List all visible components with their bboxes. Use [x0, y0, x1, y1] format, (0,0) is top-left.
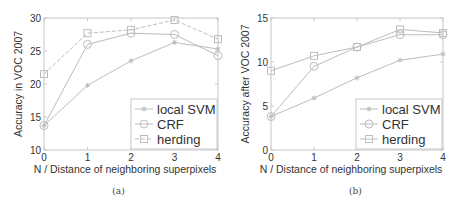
- x-tick-label: 3: [397, 152, 403, 163]
- y-tick-label: 25: [30, 46, 42, 57]
- series-herding: [41, 16, 222, 77]
- legend-label: local SVM: [382, 102, 441, 117]
- caption-a: (a): [0, 186, 237, 196]
- x-tick-label: 1: [311, 152, 317, 163]
- asterisk-legend-icon: [367, 107, 372, 112]
- x-tick-label: 0: [41, 152, 47, 163]
- x-tick-label: 0: [268, 152, 274, 163]
- legend-label: CRF: [382, 117, 409, 132]
- caption-b: (b): [237, 186, 474, 196]
- y-tick-label: 15: [257, 13, 269, 24]
- asterisk-marker-icon: [441, 52, 446, 57]
- asterisk-marker-icon: [172, 40, 177, 45]
- y-tick-label: 30: [30, 13, 42, 24]
- asterisk-marker-icon: [85, 83, 90, 88]
- y-axis-label: Accuracy after VOC 2007: [239, 24, 251, 143]
- line-chart-a: 012341015202530N / Distance of neighbori…: [0, 0, 237, 204]
- x-tick-label: 2: [354, 152, 360, 163]
- y-tick-label: 15: [30, 112, 42, 123]
- y-tick-label: 5: [262, 101, 268, 112]
- chart-panel-a: 012341015202530N / Distance of neighbori…: [0, 0, 237, 204]
- asterisk-marker-icon: [216, 47, 221, 52]
- asterisk-marker-icon: [312, 96, 317, 101]
- asterisk-legend-icon: [142, 107, 147, 112]
- y-tick-label: 20: [30, 79, 42, 90]
- x-tick-label: 4: [215, 152, 221, 163]
- legend: local SVMCRFherding: [356, 99, 442, 149]
- x-tick-label: 2: [128, 152, 134, 163]
- x-tick-label: 4: [440, 152, 446, 163]
- chart-panel-b: 01234051015N / Distance of neighboring s…: [237, 0, 474, 204]
- legend: local SVMCRFherding: [131, 99, 217, 149]
- asterisk-marker-icon: [398, 58, 403, 63]
- x-axis-label: N / Distance of neighboring superpixels: [260, 163, 443, 175]
- x-tick-label: 3: [172, 152, 178, 163]
- legend-label: CRF: [157, 117, 184, 132]
- x-axis-label: N / Distance of neighboring superpixels: [34, 163, 217, 175]
- y-axis-label: Accuracy in VOC 2007: [12, 31, 24, 137]
- legend-label: herding: [157, 132, 200, 147]
- legend-label: herding: [382, 132, 425, 147]
- asterisk-marker-icon: [129, 58, 134, 63]
- y-tick-label: 10: [257, 57, 269, 68]
- line-chart-b: 01234051015N / Distance of neighboring s…: [237, 0, 474, 204]
- x-tick-label: 1: [85, 152, 91, 163]
- y-tick-label: 0: [262, 145, 268, 156]
- series-herding: [268, 26, 447, 74]
- y-tick-label: 10: [30, 145, 42, 156]
- legend-label: local SVM: [157, 102, 216, 117]
- asterisk-marker-icon: [355, 75, 360, 80]
